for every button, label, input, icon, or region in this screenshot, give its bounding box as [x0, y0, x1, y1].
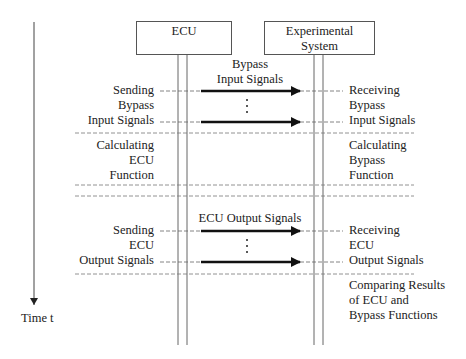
step-line: Comparing Results [349, 278, 445, 293]
step-line: Function [349, 168, 407, 183]
right-step-comparing-results: Comparing Results of ECU and Bypass Func… [349, 278, 445, 323]
ecu-lifeline [178, 55, 187, 345]
right-step-receiving-ecu-output: Receiving ECU Output Signals [349, 223, 424, 268]
step-line: Output Signals [349, 253, 424, 268]
left-step-sending-ecu-output: Sending ECU Output Signals [79, 223, 154, 268]
message-label-ecu-output: ECU Output Signals [190, 211, 310, 226]
step-line: Calculating [349, 138, 407, 153]
participant-ecu-label: ECU [172, 24, 197, 39]
experimental-lifeline [314, 55, 323, 345]
message-arrows [201, 91, 300, 262]
left-step-sending-bypass: Sending Bypass Input Signals [88, 83, 154, 128]
step-line: Function [96, 168, 154, 183]
step-line: ECU [349, 238, 424, 253]
step-line: Output Signals [79, 253, 154, 268]
participant-ecu: ECU [136, 21, 232, 55]
message-label-line: Input Signals [200, 72, 300, 87]
step-line: Bypass Functions [349, 308, 445, 323]
step-line: Input Signals [349, 113, 415, 128]
step-line: ECU [96, 153, 154, 168]
participant-experimental-system: Experimental System [264, 21, 375, 55]
left-step-calculating-ecu: Calculating ECU Function [96, 138, 154, 183]
time-axis-label: Time t [21, 311, 54, 326]
participant-experimental-label-line1: Experimental [286, 24, 353, 39]
message-label-line: ECU Output Signals [190, 211, 310, 226]
participant-experimental-label-line2: System [301, 39, 338, 54]
step-line: Bypass [88, 98, 154, 113]
step-line: Sending [88, 83, 154, 98]
right-step-calculating-bypass: Calculating Bypass Function [349, 138, 407, 183]
step-line: Bypass [349, 98, 415, 113]
step-line: Bypass [349, 153, 407, 168]
message-label-line: Bypass [200, 57, 300, 72]
step-line: Input Signals [88, 113, 154, 128]
right-step-receiving-bypass: Receiving Bypass Input Signals [349, 83, 415, 128]
message-label-bypass-input: Bypass Input Signals [200, 57, 300, 87]
step-line: Sending [79, 223, 154, 238]
step-line: ECU [79, 238, 154, 253]
step-line: of ECU and [349, 293, 445, 308]
step-line: Receiving [349, 223, 424, 238]
step-line: Receiving [349, 83, 415, 98]
step-line: Calculating [96, 138, 154, 153]
